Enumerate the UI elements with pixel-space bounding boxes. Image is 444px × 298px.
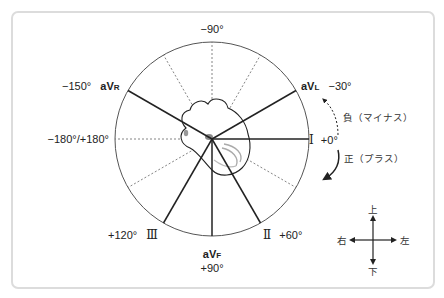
label-down: 下 (368, 266, 378, 277)
label-minus-90: −90° (200, 23, 223, 35)
label-aVL: aVL −30° (301, 75, 352, 94)
label-II: Ⅱ +60° (263, 224, 302, 243)
label-right-side: 右 (337, 235, 347, 246)
label-180: −180°/+180° (48, 133, 109, 145)
label-aVR: −150° aVR (62, 75, 120, 94)
lead-line-III (164, 139, 213, 223)
label-plus-90: +90° (200, 262, 223, 274)
label-negative-rotation: 負（マイナス） (343, 112, 413, 123)
negative-rotation-arrow (324, 100, 338, 135)
label-III: +120° Ⅲ (108, 224, 158, 243)
label-I: Ⅰ +0° (309, 129, 338, 148)
label-up: 上 (368, 204, 378, 215)
label-aVF: aVF (203, 248, 221, 260)
label-positive-rotation: 正（プラス） (344, 153, 404, 164)
hexaxial-diagram: −90° −180°/+180° −150° aVR aVL −30° Ⅰ +0… (0, 0, 444, 298)
direction-cross (352, 218, 394, 262)
positive-rotation-arrow (326, 150, 339, 178)
label-left-side: 左 (400, 235, 410, 246)
